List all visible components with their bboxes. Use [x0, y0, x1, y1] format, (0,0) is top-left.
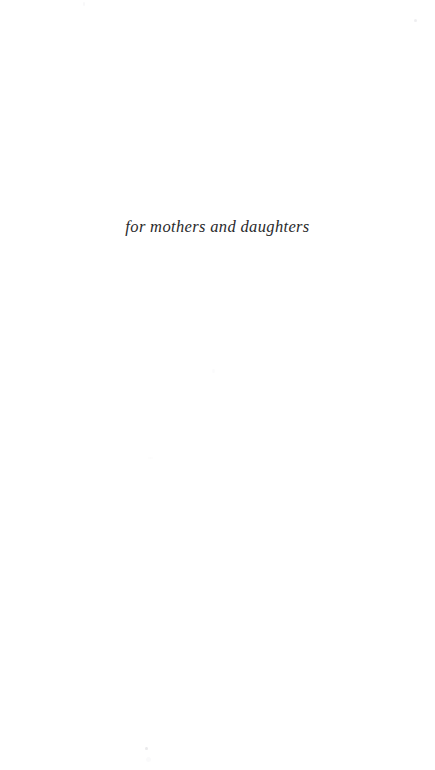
scan-speck-icon: [212, 369, 215, 373]
dedication-block: for mothers and daughters: [0, 216, 435, 238]
scan-speck-icon: [145, 747, 148, 750]
dedication-text: for mothers and daughters: [125, 216, 309, 238]
scan-speck-icon: [83, 2, 85, 6]
scan-speck-icon: [414, 19, 417, 22]
scan-speck-icon: [146, 757, 151, 762]
dedication-page: for mothers and daughters: [0, 0, 435, 770]
scan-speck-icon: [148, 457, 153, 459]
